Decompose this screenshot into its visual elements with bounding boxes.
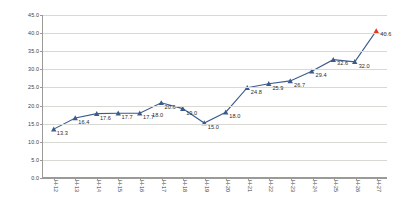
- x-axis-tick-label: H-23: [290, 180, 296, 192]
- gridline: [43, 142, 387, 143]
- x-axis-tick-label: H-20: [225, 180, 231, 192]
- x-axis-tick-label: H-14: [96, 180, 102, 192]
- y-axis-tick-label: 5.0: [31, 157, 39, 163]
- data-point-label: 20.6: [165, 104, 176, 110]
- data-point-marker[interactable]: [51, 126, 56, 131]
- data-point-label: 19.0: [186, 110, 197, 116]
- data-point-label: 16.4: [78, 119, 89, 125]
- data-point-label: 32.6: [337, 60, 348, 66]
- x-axis-tick-label: H-12: [53, 180, 59, 192]
- x-axis-tick-label: H-26: [355, 180, 361, 192]
- x-axis-tick-label: H-16: [139, 180, 145, 192]
- data-point-label: 17.6: [100, 115, 111, 121]
- gridline: [43, 69, 387, 70]
- gridline: [43, 33, 387, 34]
- data-point-label: 25.9: [272, 85, 283, 91]
- y-axis-tick-mark: [40, 15, 43, 16]
- y-axis-tick-label: 25.0: [28, 84, 39, 90]
- x-axis-tick-label: H-22: [268, 180, 274, 192]
- x-axis-tick-label: H-21: [247, 180, 253, 192]
- chart-container: 0.05.010.015.020.025.030.035.040.045.0H-…: [0, 0, 401, 212]
- y-axis-tick-label: 10.0: [28, 139, 39, 145]
- y-axis-tick-mark: [40, 124, 43, 125]
- x-axis-tick-label: H-17: [161, 180, 167, 192]
- data-series-layer: [43, 15, 387, 177]
- x-axis-tick-label: H-24: [312, 180, 318, 192]
- x-axis-tick-label: H-19: [204, 180, 210, 192]
- y-axis-tick-label: 20.0: [28, 103, 39, 109]
- y-axis-tick-mark: [40, 106, 43, 107]
- gridline: [43, 178, 387, 179]
- data-point-label: 29.4: [316, 72, 327, 78]
- x-axis-tick-label: H-25: [333, 180, 339, 192]
- y-axis-tick-label: 0.0: [31, 175, 39, 181]
- data-point-label: 32.0: [359, 63, 370, 69]
- y-axis-tick-mark: [40, 51, 43, 52]
- y-axis-tick-label: 40.0: [28, 30, 39, 36]
- data-point-label: 15.0: [208, 124, 219, 130]
- y-axis-tick-mark: [40, 160, 43, 161]
- y-axis-tick-label: 45.0: [28, 12, 39, 18]
- gridline: [43, 106, 387, 107]
- gridline: [43, 15, 387, 16]
- y-axis-tick-label: 15.0: [28, 121, 39, 127]
- y-axis-tick-label: 35.0: [28, 48, 39, 54]
- plot-area: 0.05.010.015.020.025.030.035.040.045.0H-…: [42, 15, 387, 178]
- data-point-marker[interactable]: [159, 100, 164, 105]
- x-axis-tick-label: H-15: [117, 180, 123, 192]
- y-axis-tick-mark: [40, 33, 43, 34]
- x-axis-tick-label: H-27: [376, 180, 382, 192]
- data-point-label: 24.8: [251, 89, 262, 95]
- x-axis-tick-label: H-13: [74, 180, 80, 192]
- y-axis-tick-mark: [40, 69, 43, 70]
- data-point-label: 13.3: [57, 130, 68, 136]
- x-axis-tick-label: H-18: [182, 180, 188, 192]
- data-point-label: 26.7: [294, 82, 305, 88]
- data-point-label: 18.0: [229, 113, 240, 119]
- gridline: [43, 51, 387, 52]
- data-point-label: 17.7: [121, 114, 132, 120]
- gridline: [43, 160, 387, 161]
- data-point-label: 40.6: [380, 31, 391, 37]
- y-axis-tick-label: 30.0: [28, 66, 39, 72]
- y-axis-tick-mark: [40, 87, 43, 88]
- y-axis-tick-mark: [40, 142, 43, 143]
- y-axis-tick-mark: [40, 178, 43, 179]
- gridline: [43, 87, 387, 88]
- data-point-label: 18.0: [152, 112, 163, 118]
